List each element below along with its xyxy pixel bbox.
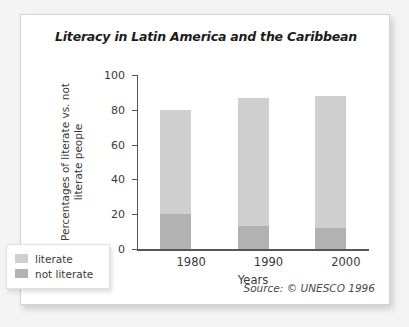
y-axis-tick-label: 100 <box>104 69 125 82</box>
bar-group[interactable] <box>315 96 346 249</box>
legend-item[interactable]: literate <box>15 251 103 266</box>
y-axis-line <box>137 75 138 250</box>
x-axis-tick-label: 1980 <box>161 255 221 269</box>
y-axis-title-line-1: Percentages of literate vs. not <box>59 83 71 241</box>
bar-segment[interactable] <box>238 98 269 227</box>
y-axis-title-line-2: literate people <box>72 124 84 201</box>
x-axis-line <box>137 249 369 251</box>
chart-page: Literacy in Latin America and the Caribb… <box>0 0 409 327</box>
legend-swatch <box>15 269 28 278</box>
legend-swatch <box>15 254 28 263</box>
bar-segment[interactable] <box>160 110 191 214</box>
page-title: Literacy in Latin America and the Caribb… <box>21 29 391 44</box>
plot-area: 020406080100 198019902000 <box>137 75 369 249</box>
x-axis-tick-label: 2000 <box>316 255 376 269</box>
bar-segment[interactable] <box>315 228 346 249</box>
legend-label: literate <box>35 253 73 265</box>
x-axis-tick-label: 1990 <box>239 255 299 269</box>
y-axis-title: Percentages of literate vs. not literate… <box>55 75 89 249</box>
legend-label: not literate <box>35 268 93 280</box>
legend-item[interactable]: not literate <box>15 266 103 281</box>
y-axis-tick: 80 <box>132 110 137 111</box>
y-axis-tick: 100 <box>132 75 137 76</box>
bar-segment[interactable] <box>160 214 191 249</box>
chart-legend: literatenot literate <box>6 244 110 289</box>
y-axis-tick: 0 <box>132 249 137 250</box>
y-axis-tick: 20 <box>132 214 137 215</box>
y-axis-tick: 60 <box>132 145 137 146</box>
y-axis-tick-label: 80 <box>111 103 125 116</box>
bar-segment[interactable] <box>315 96 346 228</box>
y-axis-tick: 40 <box>132 179 137 180</box>
y-axis-tick-label: 60 <box>111 138 125 151</box>
bar-group[interactable] <box>160 110 191 249</box>
y-axis-tick-label: 20 <box>111 208 125 221</box>
y-axis-tick-label: 0 <box>118 243 125 256</box>
bar-group[interactable] <box>238 98 269 249</box>
y-axis-tick-label: 40 <box>111 173 125 186</box>
source-note: Source: © UNESCO 1996 <box>243 282 375 294</box>
bar-segment[interactable] <box>238 226 269 249</box>
